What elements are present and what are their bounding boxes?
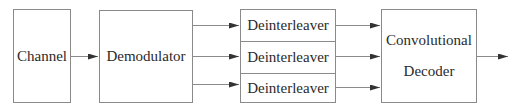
deinterleaver-block-2: Deinterleaver bbox=[241, 41, 335, 73]
decoder-label-line1: Convolutional bbox=[386, 33, 472, 48]
deinterleaver-label: Deinterleaver bbox=[247, 49, 329, 66]
channel-block: Channel bbox=[13, 9, 71, 103]
deinterleaver-label: Deinterleaver bbox=[247, 80, 329, 97]
convolutional-decoder-block: Convolutional Decoder bbox=[381, 9, 477, 103]
deinterleaver-label: Deinterleaver bbox=[247, 17, 329, 34]
deinterleaver-block-3: Deinterleaver bbox=[241, 73, 335, 102]
deinterleaver-block-1: Deinterleaver bbox=[241, 10, 335, 41]
deinterleaver-stack: Deinterleaver Deinterleaver Deinterleave… bbox=[240, 9, 336, 103]
demodulator-label: Demodulator bbox=[106, 49, 185, 64]
demodulator-block: Demodulator bbox=[99, 10, 193, 103]
channel-label: Channel bbox=[17, 49, 67, 64]
decoder-label-line2: Decoder bbox=[404, 64, 455, 79]
